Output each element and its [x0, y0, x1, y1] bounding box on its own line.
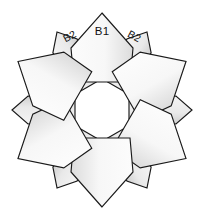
label-b1: B1	[95, 25, 110, 37]
rosette-diagram: B1B2B2	[0, 0, 204, 211]
center-hole	[77, 85, 127, 135]
rosette-figure: B1B2B2	[0, 0, 204, 211]
